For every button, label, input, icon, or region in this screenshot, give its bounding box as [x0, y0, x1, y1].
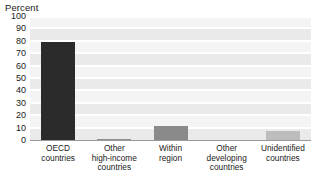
y-tick-label: 70 — [0, 49, 26, 58]
bar-chart: Percent 1009080706050403020100 OECD coun… — [0, 0, 331, 189]
x-tick-label: Other high-income countries — [86, 144, 142, 173]
bar — [154, 126, 188, 140]
gridline — [30, 27, 311, 29]
y-tick-label: 90 — [0, 24, 26, 33]
bar — [266, 131, 300, 140]
gridline — [30, 16, 311, 18]
y-tick-label: 30 — [0, 99, 26, 108]
x-axis-line — [30, 140, 311, 141]
x-tick-label: Other developing countries — [199, 144, 255, 173]
x-tick-label: Within region — [142, 144, 198, 163]
y-tick-label: 60 — [0, 62, 26, 71]
x-tick-label: Unidentified countries — [255, 144, 311, 163]
y-tick-label: 100 — [0, 12, 26, 21]
plot-area — [30, 16, 311, 140]
y-tick-label: 10 — [0, 124, 26, 133]
y-tick-label: 0 — [0, 136, 26, 145]
y-tick-label: 20 — [0, 111, 26, 120]
y-tick-label: 80 — [0, 37, 26, 46]
bar — [41, 42, 75, 140]
y-tick-label: 50 — [0, 74, 26, 83]
x-tick-label: OECD countries — [30, 144, 86, 163]
y-tick-label: 40 — [0, 86, 26, 95]
